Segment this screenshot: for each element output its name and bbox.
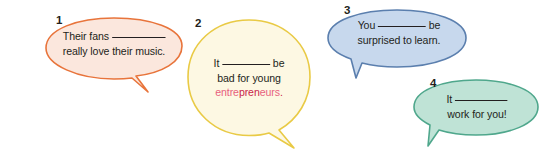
bubble-3-blank (378, 26, 426, 27)
speech-bubble-1: 1 Their fans really love their music. (44, 16, 184, 94)
bubble-2-line3-seg-1: entre (215, 86, 239, 98)
speech-bubble-3: 3 You be surprised to learn. (326, 8, 468, 80)
bubble-4-number: 4 (430, 78, 436, 90)
speech-bubble-2: 2 It be bad for young entrepreneurs. (186, 18, 312, 152)
bubble-1-number: 1 (56, 15, 62, 27)
bubble-4-line2: work for you! (447, 108, 506, 120)
bubble-2-line2: bad for young (217, 72, 281, 84)
bubble-2-line3: entrepreneurs. (215, 86, 283, 98)
bubble-2-line1-after: be (273, 57, 285, 69)
bubble-3-line2: surprised to learn. (358, 34, 441, 46)
bubble-2-line3-seg-2: pren (239, 86, 260, 98)
bubble-4-blank (455, 100, 507, 101)
bubble-1-line2: really love their music. (63, 45, 165, 57)
bubble-2-line1-before: It (214, 57, 220, 69)
bubble-2-line3-seg-4: . (280, 86, 283, 98)
bubble-2-number: 2 (195, 18, 201, 30)
bubble-3-line1-before: You (358, 19, 376, 31)
bubble-2-line3-seg-3: eurs (260, 86, 280, 98)
bubble-4-line1-before: It (446, 93, 452, 105)
bubble-3-number: 3 (344, 5, 350, 17)
bubble-3-text: You be surprised to learn. (347, 18, 452, 47)
bubble-1-text: Their fans really love their music. (61, 29, 168, 58)
speech-bubble-4: 4 It work for you! (412, 78, 540, 148)
bubble-1-blank (112, 37, 165, 38)
bubble-3-line1-after: be (429, 19, 441, 31)
bubble-2-blank (222, 64, 270, 65)
bubble-4-text: It work for you! (430, 92, 524, 121)
bubble-2-text: It be bad for young entrepreneurs. (199, 56, 298, 100)
bubble-1-line1-before: Their fans (63, 30, 109, 42)
speech-bubbles-illustration: 1 Their fans really love their music. 2 … (0, 0, 544, 153)
